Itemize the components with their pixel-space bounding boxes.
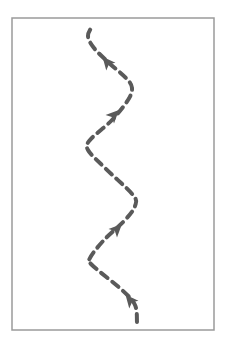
diagram-canvas xyxy=(0,0,227,345)
dashed-path xyxy=(86,25,137,322)
